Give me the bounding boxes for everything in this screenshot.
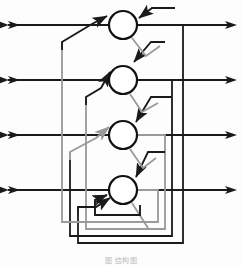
neuron-1[interactable] (109, 11, 137, 39)
neuron-2[interactable] (109, 66, 137, 94)
input-arrowheads (8, 21, 20, 194)
feedback-arrow-into-neuron-3 (70, 127, 109, 160)
feedback-arrow-into-neuron-1 (62, 16, 107, 50)
neuron-3[interactable] (109, 121, 137, 149)
horizontal-signal-lines (8, 25, 120, 190)
feedback-arrow-top-into-neuron-1 (139, 8, 175, 18)
recurrent-network-diagram (0, 0, 242, 267)
neuron-4[interactable] (109, 176, 137, 204)
output-arrowheads (225, 21, 237, 194)
feedback-arrow-into-neuron-2 (86, 72, 110, 105)
crosslink-n1-to-n2 (134, 42, 165, 62)
figure-root: 图 结构图 (0, 0, 242, 267)
figure-caption: 图 结构图 (0, 255, 242, 267)
feedback-arrow-into-neuron-4 (78, 198, 110, 215)
top-feedback-return (139, 8, 175, 18)
